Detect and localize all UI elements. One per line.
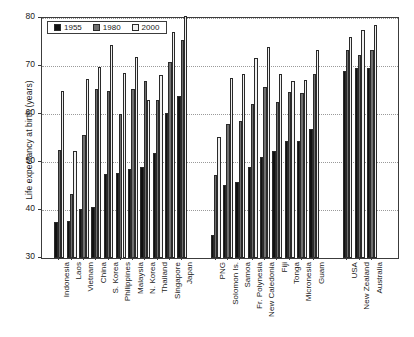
x-tick-mark (181, 257, 182, 260)
y-tick-mark (38, 65, 41, 66)
y-tick-mark (38, 17, 41, 18)
bar-tonga-2000 (291, 81, 294, 258)
legend-label-1955: 1955 (64, 23, 82, 32)
bar-png-2000 (217, 137, 220, 258)
bar-samoa-2000 (242, 74, 245, 258)
y-tick-label: 70 (5, 59, 35, 69)
bar-vietnam-2000 (86, 79, 89, 258)
x-tick-mark (132, 257, 133, 260)
x-tick-mark (169, 257, 170, 260)
legend-item-1980: 1980 (93, 23, 121, 32)
x-tick-label: Malaysia (136, 262, 145, 294)
y-tick-label: 80 (5, 11, 35, 21)
x-tick-mark (359, 257, 360, 260)
legend-label-1980: 1980 (103, 23, 121, 32)
y-tick-mark (38, 161, 41, 162)
bar-solomon-is--2000 (230, 78, 233, 258)
bar-philippines-2000 (123, 73, 126, 258)
x-tick-label: Japan (185, 262, 194, 284)
x-tick-label: Micronesia (304, 262, 313, 301)
bar-guam-2000 (316, 50, 319, 258)
x-tick-label: Samoa (243, 262, 252, 288)
x-tick-label: Philippines (123, 262, 132, 301)
y-tick-label: 50 (5, 155, 35, 165)
x-tick-mark (301, 257, 302, 260)
bars-layer (42, 18, 398, 258)
x-tick-label: PNG (218, 262, 227, 280)
x-tick-label: Tonga (292, 262, 301, 284)
x-tick-label: USA (350, 262, 359, 279)
x-tick-mark (346, 257, 347, 260)
x-tick-mark (289, 257, 290, 260)
bar-usa-2000 (349, 37, 352, 258)
x-tick-mark (215, 257, 216, 260)
legend-item-2000: 2000 (132, 23, 160, 32)
bar-indonesia-2000 (61, 91, 64, 258)
plot-area (41, 17, 399, 259)
bar-singapore-2000 (172, 32, 175, 258)
x-tick-mark (83, 257, 84, 260)
x-tick-label: New Caledonia (267, 262, 276, 317)
y-tick-label: 60 (5, 107, 35, 117)
x-tick-label: N. Korea (148, 262, 157, 294)
x-tick-mark (120, 257, 121, 260)
x-tick-label: Solomon Is. (231, 262, 240, 305)
x-tick-label: Singapore (173, 262, 182, 299)
legend-label-2000: 2000 (142, 23, 160, 32)
bar-china-2000 (98, 67, 101, 258)
x-tick-mark (227, 257, 228, 260)
bar-new-zealand-2000 (361, 30, 364, 258)
x-tick-label: Laos (74, 262, 83, 280)
x-tick-mark (264, 257, 265, 260)
x-tick-mark (276, 257, 277, 260)
y-tick-mark (38, 209, 41, 210)
x-tick-label: S. Korea (111, 262, 120, 294)
legend-item-1955: 1955 (54, 23, 82, 32)
x-tick-label: Fiji (280, 262, 289, 272)
bar-malaysia-2000 (135, 57, 138, 258)
x-tick-mark (157, 257, 158, 260)
y-tick-label: 40 (5, 203, 35, 213)
bar-japan-2000 (184, 16, 187, 258)
x-tick-label: Guam (317, 262, 326, 284)
x-tick-label: Indonesia (62, 262, 71, 297)
x-tick-mark (95, 257, 96, 260)
bar-laos-2000 (73, 151, 76, 258)
y-tick-label: 30 (5, 251, 35, 261)
bar-n-korea-2000 (147, 100, 150, 258)
x-tick-label: New Zealand (362, 262, 371, 310)
bar-micronesia-2000 (304, 80, 307, 258)
bar-new-caledonia-2000 (267, 47, 270, 258)
legend-swatch-2000 (132, 24, 139, 31)
legend-swatch-1980 (93, 24, 100, 31)
x-tick-mark (371, 257, 372, 260)
x-tick-label: Vietnam (86, 262, 95, 292)
x-tick-mark (71, 257, 72, 260)
life-expectancy-bar-chart: Life expectancy at birth (years) 3040506… (0, 0, 414, 337)
x-tick-mark (239, 257, 240, 260)
chart-legend: 1955 1980 2000 (47, 21, 167, 34)
x-tick-mark (252, 257, 253, 260)
y-tick-mark (38, 257, 41, 258)
x-tick-mark (144, 257, 145, 260)
x-tick-label: China (99, 262, 108, 283)
bar-fiji-2000 (279, 74, 282, 258)
bar-thailand-2000 (159, 75, 162, 258)
legend-swatch-1955 (54, 24, 61, 31)
x-tick-mark (313, 257, 314, 260)
x-tick-mark (58, 257, 59, 260)
x-tick-mark (108, 257, 109, 260)
bar-s-korea-2000 (110, 45, 113, 258)
bar-fr-polynesia-2000 (254, 58, 257, 258)
bar-australia-2000 (374, 25, 377, 258)
x-tick-label: Thailand (160, 262, 169, 293)
x-tick-label: Fr. Polynesia (255, 262, 264, 309)
y-axis-label: Life expectancy at birth (years) (24, 55, 34, 225)
x-tick-label: Australia (375, 262, 384, 294)
y-tick-mark (38, 113, 41, 114)
